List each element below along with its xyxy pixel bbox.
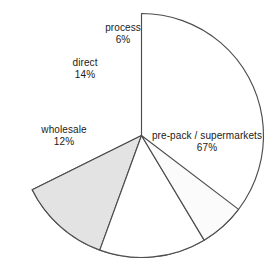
pie-label-pre-pack-supermarkets-value: 67% [143,142,271,154]
pie-label-direct: direct 14% [58,57,112,80]
pie-label-wholesale-name: wholesale [26,124,102,136]
pie-label-process: process 6% [96,22,150,45]
pie-label-wholesale: wholesale 12% [26,124,102,147]
pie-label-direct-name: direct [58,57,112,69]
pie-label-direct-value: 14% [58,69,112,81]
pie-label-wholesale-value: 12% [26,136,102,148]
pie-label-pre-pack-supermarkets: pre-pack / supermarkets 67% [143,130,271,153]
pie-label-process-value: 6% [96,34,150,46]
pie-label-pre-pack-supermarkets-name: pre-pack / supermarkets [143,130,271,142]
pie-chart: process 6% direct 14% wholesale 12% pre-… [0,0,277,271]
pie-label-process-name: process [96,22,150,34]
